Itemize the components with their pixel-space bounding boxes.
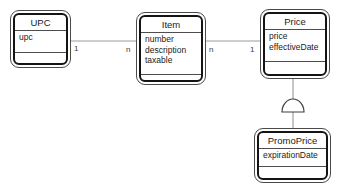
cardinality-item-left-side: n [126, 45, 130, 54]
entity-promoprice-title: PromoPrice [259, 133, 326, 149]
cardinality-price-side: 1 [250, 45, 254, 54]
entity-promoprice-empty-compartment [259, 167, 326, 178]
entity-item-title: Item [141, 17, 201, 33]
generalization-semicircle-icon [282, 99, 304, 112]
entity-promoprice-attributes: expirationDate [259, 149, 326, 167]
entity-item: Item number description taxable [136, 12, 206, 85]
attribute: taxable [145, 55, 199, 66]
attribute: description [145, 45, 199, 56]
class-diagram: UPC upc Item number description taxable … [0, 0, 344, 190]
entity-upc: UPC upc [10, 10, 71, 68]
entity-price-frame: Price price effectiveDate [263, 12, 327, 76]
entity-price-title: Price [265, 14, 325, 30]
attribute: effectiveDate [269, 42, 323, 53]
entity-upc-title: UPC [15, 15, 66, 31]
entity-upc-empty-compartment [15, 53, 66, 63]
entity-price: Price price effectiveDate [260, 9, 330, 79]
attribute: upc [19, 32, 64, 43]
attribute: price [269, 31, 323, 42]
attribute: expirationDate [263, 150, 324, 161]
cardinality-upc-side: 1 [74, 44, 78, 53]
entity-item-attributes: number description taxable [141, 33, 201, 75]
entity-promoprice-frame: PromoPrice expirationDate [257, 131, 328, 180]
entity-item-empty-compartment [141, 75, 201, 80]
entity-promoprice: PromoPrice expirationDate [254, 128, 331, 183]
entity-upc-attributes: upc [15, 31, 66, 53]
entity-price-empty-compartment [265, 62, 325, 74]
entity-item-frame: Item number description taxable [139, 15, 203, 82]
entity-price-attributes: price effectiveDate [265, 30, 325, 62]
entity-upc-frame: UPC upc [13, 13, 68, 65]
cardinality-item-right-side: n [209, 45, 213, 54]
attribute: number [145, 34, 199, 45]
